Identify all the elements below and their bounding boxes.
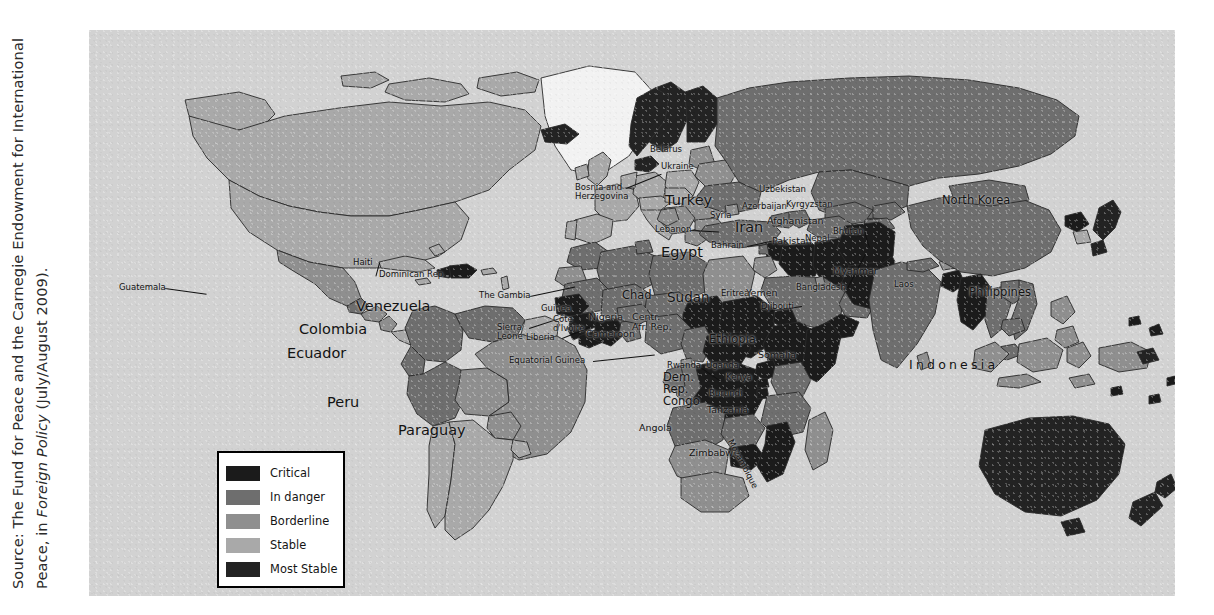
country-new-zealand-s [1129, 492, 1163, 526]
legend-label-in-danger: In danger [270, 490, 325, 504]
country-pacific-island-2 [1129, 316, 1141, 326]
country-canada-arctic-2 [477, 72, 539, 96]
country-south-korea [1073, 230, 1091, 244]
source-publication: Foreign Policy [33, 414, 50, 517]
legend-label-critical: Critical [270, 466, 310, 480]
country-pacific-island-5 [1167, 376, 1175, 386]
country-nepal [907, 258, 939, 272]
country-indonesia-timor [1069, 374, 1095, 388]
legend-label-borderline: Borderline [270, 514, 329, 528]
country-denmark [635, 156, 659, 172]
world-map[interactable]: .c { stroke:#2a2a2a; stroke-width:.9; st… [89, 30, 1175, 596]
country-japan-south [1091, 240, 1107, 256]
country-indonesia-borneo [1017, 338, 1063, 372]
country-rwanda [757, 378, 769, 388]
country-zambia [721, 414, 765, 448]
country-philippines-1 [1051, 296, 1075, 324]
country-lebanon [759, 244, 769, 254]
legend-swatch-critical [226, 466, 260, 481]
legend-swatch-in-danger [226, 490, 260, 505]
country-south-africa [681, 472, 749, 512]
legend-row: Stable [226, 533, 337, 557]
map-legend: Critical In danger Borderline Stable Mos… [217, 451, 345, 588]
country-pacific-island-4 [1149, 394, 1161, 404]
country-india [869, 262, 941, 368]
country-tunisia [635, 240, 653, 254]
country-jamaica [415, 278, 431, 285]
country-mongolia [949, 180, 1029, 206]
legend-row: Borderline [226, 509, 337, 533]
legend-swatch-stable [226, 538, 260, 553]
legend-row: Most Stable [226, 557, 337, 581]
legend-swatch-borderline [226, 514, 260, 529]
country-lesser-antilles [501, 276, 509, 290]
legend-row: In danger [226, 485, 337, 509]
legend-row: Critical [226, 461, 337, 485]
country-dominican-rep [449, 264, 477, 278]
country-moldova [725, 204, 739, 216]
source-suffix: (July/August 2009). [33, 267, 50, 414]
country-new-zealand-n [1155, 474, 1175, 498]
country-puerto-rico [481, 268, 497, 275]
country-sri-lanka [917, 352, 931, 370]
map-figure: Source: The Fund for Peace and the Carne… [0, 0, 1214, 615]
country-pacific-island-3 [1111, 386, 1123, 396]
country-tasmania [1061, 518, 1085, 536]
legend-label-stable: Stable [270, 538, 306, 552]
country-canada-arctic-3 [341, 72, 389, 88]
country-bahrain [815, 276, 825, 286]
country-north-korea [1065, 212, 1089, 232]
legend-swatch-most-stable [226, 562, 260, 577]
country-russia [715, 76, 1079, 192]
legend-label-most-stable: Most Stable [270, 562, 337, 576]
country-finland [685, 86, 717, 142]
country-portugal [565, 220, 577, 240]
country-indonesia-java [997, 374, 1041, 388]
source-caption: Source: The Fund for Peace and the Carne… [0, 0, 78, 615]
country-netherlands-belgium [621, 172, 637, 188]
country-japan [1093, 200, 1121, 240]
country-canada-arctic-1 [385, 78, 469, 102]
source-caption-text: Source: The Fund for Peace and the Carne… [6, 10, 54, 589]
country-pacific-island-1 [1149, 324, 1163, 336]
country-australia [979, 416, 1125, 516]
country-madagascar [805, 412, 833, 470]
